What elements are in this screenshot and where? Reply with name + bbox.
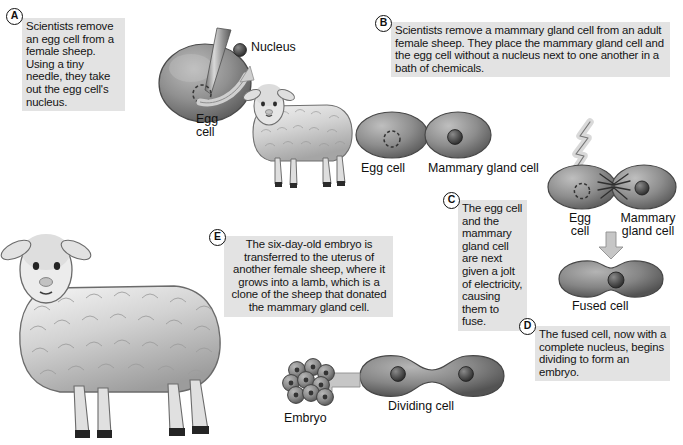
dividing-cell-illustration <box>356 352 508 400</box>
label-mammary-gland-cell-b: Mammary gland cell <box>428 162 539 175</box>
nucleus-dot-icon <box>232 42 248 58</box>
sheep-illustration-egg-donor <box>237 62 361 190</box>
step-text-a: Scientists remove an egg cell from a fem… <box>22 18 125 111</box>
label-embryo: Embryo <box>284 412 327 425</box>
fusion-down-arrow <box>598 232 624 260</box>
fusing-cells-illustration <box>546 160 678 212</box>
label-nucleus: Nucleus <box>251 41 296 54</box>
cloning-diagram: A Scientists remove an egg cell from a f… <box>0 0 683 445</box>
label-egg-cell-b: Egg cell <box>361 162 405 175</box>
sheep-illustration-clone <box>2 218 234 444</box>
label-dividing-cell: Dividing cell <box>388 400 454 413</box>
step-badge-b: B <box>375 15 392 32</box>
label-egg-cell-a: Egg cell <box>196 113 218 139</box>
step-badge-d: D <box>519 318 536 335</box>
label-mammary-gland-cell-c: Mammarygland cell <box>614 212 682 239</box>
step-text-b: Scientists remove a mammary gland cell f… <box>391 22 670 77</box>
step-badge-c: C <box>443 192 460 209</box>
embryo-illustration <box>280 358 340 410</box>
label-egg-cell-c: Eggcell <box>556 212 604 239</box>
step-text-e: The six-day-old embryo is transferred to… <box>224 236 393 317</box>
step-text-d: The fused cell, now with a complete nucl… <box>535 326 670 381</box>
step-badge-e: E <box>209 229 226 246</box>
fused-cell-illustration <box>555 258 667 300</box>
adjacent-cells-illustration <box>352 110 512 160</box>
step-text-c: The egg cell and the mammary gland cell … <box>458 200 527 331</box>
label-fused-cell: Fused cell <box>572 300 628 313</box>
step-badge-a: A <box>6 8 23 25</box>
